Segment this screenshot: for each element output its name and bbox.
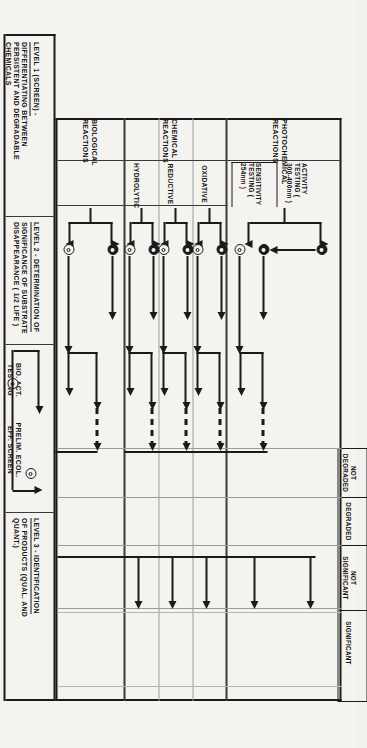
outcome-col-rule-2 xyxy=(339,545,367,546)
ox-negative-node xyxy=(192,244,203,255)
bio-neg-l-top xyxy=(95,352,97,404)
bio-neg-l-down-arrowhead xyxy=(65,388,73,396)
level-2-body-text: SIGNIFICANCE OF SUBSTRATE DISAPPEARANCE … xyxy=(12,222,27,334)
ox-dashed-link xyxy=(219,408,222,444)
group-title-chemical-text: CHEMICAL REACTIONS xyxy=(162,119,177,163)
bio-split-stem-h xyxy=(89,208,91,223)
sub-title-oxidative: OXIDATIVE xyxy=(199,163,215,205)
hyd-l-down-arrowhead xyxy=(126,388,134,396)
red-dashed-link xyxy=(185,408,188,444)
photo-sens-dashed-link xyxy=(262,408,265,444)
outcome-header-not-degraded-text: NOT DEGRADED xyxy=(341,454,355,492)
bio-mini-bottom xyxy=(11,350,13,490)
level3-feeder-spine xyxy=(57,556,315,558)
photo-sens-l-down-arrowhead xyxy=(237,388,245,396)
photo-sens-l-down xyxy=(239,352,241,390)
outcome-header-not-significant: NOT SIGNIFICANT xyxy=(341,547,363,609)
level-2-body: SIGNIFICANCE OF SUBSTRATE DISAPPEARANCE … xyxy=(11,222,35,348)
photo-sens-negative-node xyxy=(234,244,245,255)
sub-title-oxidative-text: OXIDATIVE xyxy=(200,165,207,203)
bio-positive-node xyxy=(107,244,118,255)
group-title-chemical: CHEMICAL REACTIONS xyxy=(160,119,185,159)
hyd-positive-node xyxy=(148,244,159,255)
group-title-photochemical: PHOTOCHEMICAL REACTIONS xyxy=(262,119,295,159)
lower-band-top-rule xyxy=(53,34,55,701)
sub-title-hydrolytic: HYDROLYTIC xyxy=(131,163,147,205)
red-dashed-arrowhead xyxy=(182,443,190,451)
bio-mini-top xyxy=(37,350,39,408)
sub-title-reductive-text: REDUCTIVE xyxy=(166,164,173,205)
sub-title-hydrolytic-text: HYDROLYTIC xyxy=(132,163,139,208)
photo-sens-dashed-arrowhead xyxy=(259,443,267,451)
photo-sens-l-vert xyxy=(239,352,263,354)
bio-mini-left-vert xyxy=(13,350,39,352)
bio-mini-neg-node-b xyxy=(25,468,36,479)
guide-rule-trailing xyxy=(57,686,341,687)
guide-rule-degraded-b xyxy=(57,545,341,546)
photo-act-neg-arrowhead xyxy=(244,240,252,248)
bio-mini-right-vert xyxy=(12,490,35,492)
ox-l-down-arrowhead xyxy=(194,388,202,396)
bio-neg-l-vert xyxy=(67,352,97,354)
sensitivity-bracket xyxy=(231,162,277,207)
sub-title-activity-testing-text: ACTIVITY TESTING ( 300-400nm ) xyxy=(285,163,307,203)
level-sep-bio-3 xyxy=(5,512,55,513)
group-label-lane-rule xyxy=(57,160,341,161)
photo-sens-positive-node xyxy=(258,244,269,255)
guide-rule-degraded-a xyxy=(57,497,341,498)
hyd-split-stem-h xyxy=(140,208,142,223)
bio-neg-tail-vert xyxy=(55,451,97,453)
red-l-top xyxy=(184,352,186,404)
group-title-biological: BIOLOGICAL REACTIONS xyxy=(80,119,105,159)
hyd-dashed-link xyxy=(151,408,154,444)
photo-activity-positive-node xyxy=(316,244,327,255)
outcome-header-degraded-text: DEGRADED xyxy=(344,502,351,540)
guide-rule-not-significant xyxy=(57,608,341,609)
level-1-body: DIFFERENTIATING BETWEEN PERSISTENT AND D… xyxy=(2,42,35,214)
outcome-col-rule-3 xyxy=(339,610,367,611)
red-l-down xyxy=(162,352,164,390)
sub-title-reductive: REDUCTIVE xyxy=(165,163,181,205)
chem-dashed-collector xyxy=(124,451,224,453)
bio-mini-top-arrowhead xyxy=(35,406,43,414)
lower-band-right-rule xyxy=(5,699,55,701)
level-3-body-text: OF PRODUCTS (QUAL. AND QUANT.) xyxy=(12,518,27,617)
hyd-l-vert xyxy=(128,352,152,354)
sub-label-lane-rule xyxy=(57,205,227,206)
red-positive-node xyxy=(182,244,193,255)
ox-dashed-arrowhead xyxy=(216,443,224,451)
outcome-header-degraded: DEGRADED xyxy=(343,499,358,544)
outcome-header-significant: SIGNIFICANT xyxy=(343,612,358,674)
frame-right-outer xyxy=(55,699,341,701)
hyd-l-top xyxy=(150,352,152,404)
outcome-header-not-significant-text: NOT SIGNIFICANT xyxy=(341,556,355,600)
lower-band-left-rule xyxy=(5,34,55,36)
bio-neg-dashed-arrowhead xyxy=(93,443,101,451)
photo-split-stem-h xyxy=(283,208,285,223)
level-1-body-text: DIFFERENTIATING BETWEEN PERSISTENT AND D… xyxy=(4,42,27,160)
hyd-negative-node xyxy=(124,244,135,255)
hyd-dashed-arrowhead xyxy=(148,443,156,451)
level-3-body: OF PRODUCTS (QUAL. AND QUANT.) xyxy=(11,518,35,688)
photo-sens-l-top xyxy=(261,352,263,404)
ox-l-vert xyxy=(196,352,220,354)
bio-negative-node xyxy=(63,244,74,255)
sub-title-activity-testing: ACTIVITY TESTING ( 300-400nm ) xyxy=(285,163,315,205)
outcome-header-significant-text: SIGNIFICANT xyxy=(344,621,351,665)
bio-neg-dashed-link xyxy=(96,408,99,444)
group-title-photochemical-text: PHOTOCHEMICAL REACTIONS xyxy=(270,119,287,159)
red-negative-node xyxy=(158,244,169,255)
outcome-header-not-degraded: NOT DEGRADED xyxy=(341,450,363,496)
guide-rule-significant xyxy=(57,612,341,613)
red-split-stem-h xyxy=(174,208,176,223)
bio-neg-l-down xyxy=(67,352,69,390)
ox-l-down xyxy=(196,352,198,390)
photo-dashed-collector xyxy=(223,451,267,453)
red-l-down-arrowhead xyxy=(160,388,168,396)
group-title-biological-text: BIOLOGICAL REACTIONS xyxy=(82,119,97,166)
ox-l-top xyxy=(218,352,220,404)
ox-split-stem-h xyxy=(208,208,210,223)
red-l-vert xyxy=(162,352,186,354)
